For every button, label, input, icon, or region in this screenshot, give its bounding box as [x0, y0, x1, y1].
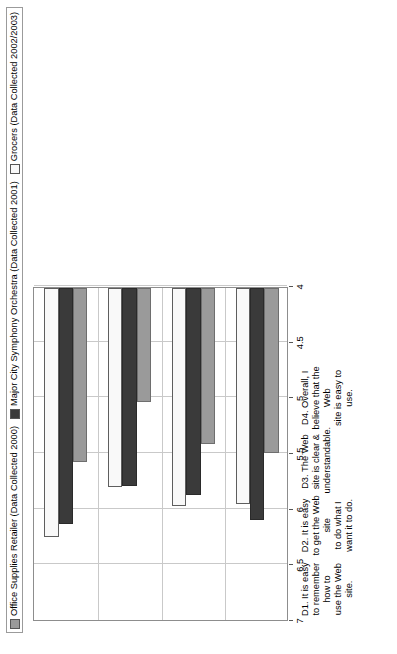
- value-axis: 76.565.554.54: [289, 287, 290, 621]
- bar-office: [264, 288, 278, 453]
- legend-label-grocers: Grocers (Data Collected 2002/2003): [9, 12, 20, 161]
- category-label: D4. Overall, I believe that the Web site…: [300, 366, 355, 430]
- legend-item-orchestra: Major City Symphony Orchestra (Data Coll…: [9, 181, 20, 419]
- axis-tick: [289, 342, 293, 343]
- axis-tick: [289, 509, 293, 510]
- axis-tick: [289, 564, 293, 565]
- gridline: [34, 285, 287, 286]
- bar-office: [201, 288, 215, 444]
- axis-tick: [289, 286, 293, 287]
- bar-grocers: [236, 288, 250, 504]
- bar-orchestra: [186, 288, 200, 495]
- legend-item-office: Office Supplies Retailer (Data Collected…: [9, 426, 20, 629]
- bar-grocers: [172, 288, 186, 506]
- bar-orchestra: [250, 288, 264, 520]
- legend-swatch-grocers-icon: [10, 164, 20, 174]
- legend-swatch-office-icon: [10, 619, 20, 629]
- bar-group: [34, 288, 98, 620]
- bar-orchestra: [122, 288, 136, 486]
- bar-group: [162, 288, 226, 620]
- axis-tick: [289, 453, 293, 454]
- legend-label-orchestra: Major City Symphony Orchestra (Data Coll…: [9, 181, 20, 406]
- legend-label-office: Office Supplies Retailer (Data Collected…: [9, 426, 20, 616]
- axis-tick: [289, 397, 293, 398]
- bar-chart-figure: Office Supplies Retailer (Data Collected…: [0, 0, 397, 654]
- legend-swatch-orchestra-icon: [10, 409, 20, 419]
- category-axis: D1. It is easy to remember how to use th…: [300, 287, 340, 621]
- bar-grocers: [44, 288, 58, 537]
- rotated-figure-wrapper: Office Supplies Retailer (Data Collected…: [0, 0, 397, 654]
- legend-item-grocers: Grocers (Data Collected 2002/2003): [9, 12, 20, 174]
- plot-area: [33, 287, 288, 621]
- bar-orchestra: [59, 288, 73, 524]
- category-label: D1. It is easy to remember how to use th…: [300, 557, 355, 621]
- axis-tick: [289, 620, 293, 621]
- bar-office: [73, 288, 87, 462]
- bar-office: [137, 288, 151, 402]
- bar-group: [225, 288, 289, 620]
- bar-grocers: [108, 288, 122, 487]
- category-label: D3. The Web site is clear & understandab…: [300, 430, 333, 494]
- chart-legend: Office Supplies Retailer (Data Collected…: [6, 7, 23, 633]
- bar-group: [98, 288, 162, 620]
- category-label: D2. It is easy to get the Web site to do…: [300, 494, 355, 558]
